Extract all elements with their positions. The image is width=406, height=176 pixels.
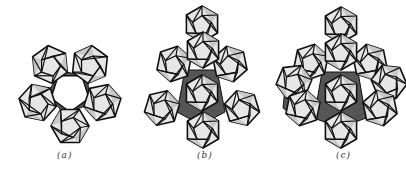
icosahedron [325, 34, 356, 70]
icosahedron [187, 32, 218, 68]
icosahedron [325, 75, 356, 111]
icosahedron [19, 84, 56, 120]
panel-c-label: (c) [336, 150, 351, 160]
icosahedron [157, 46, 191, 81]
icosahedron [186, 75, 217, 111]
icosahedron [325, 112, 356, 148]
icosahedron [224, 91, 259, 125]
panel-b-label: (b) [197, 150, 213, 160]
panel-c-icosahedra-cluster [276, 7, 406, 148]
icosahedron [51, 110, 89, 143]
icosahedron [187, 112, 218, 148]
icosahedron [144, 91, 179, 125]
icosahedron [286, 90, 320, 125]
panel-a-label: (a) [57, 150, 72, 160]
icosahedron [84, 84, 121, 120]
panel-a-icosahedra-ring [19, 46, 121, 143]
panel-b-icosahedra-cluster [144, 6, 259, 148]
icosahedron [363, 90, 397, 125]
